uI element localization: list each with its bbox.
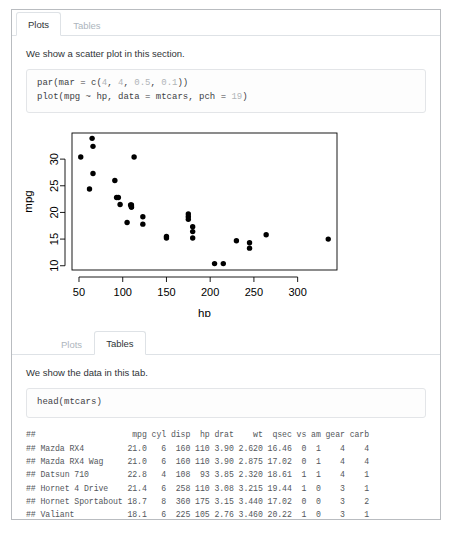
tab-plots[interactable]: Plots — [16, 12, 61, 37]
scatter-point — [186, 212, 191, 217]
scatter-point — [190, 224, 195, 229]
tables-description: We show the data in this tab. — [12, 355, 440, 379]
tab-tables[interactable]: Tables — [61, 13, 112, 37]
scatter-point — [131, 154, 136, 159]
scatter-point — [326, 237, 331, 242]
tabbar-tables: Plots Tables — [12, 329, 440, 355]
scatter-point — [124, 220, 129, 225]
scatter-point — [234, 238, 239, 243]
x-tick-label: 250 — [245, 286, 263, 298]
console-output: ## mpg cyl disp hp drat wt qsec vs am ge… — [26, 428, 426, 521]
plots-code-block: par(mar = c(4, 4, 0.5, 0.1)) plot(mpg ~ … — [26, 69, 426, 113]
output-row: ## Datsun 710 22.8 4 108 93 3.85 2.320 1… — [26, 468, 426, 481]
x-tick-label: 100 — [114, 286, 132, 298]
scatter-plot-figure: 501001502002503001015202530hpmpg — [12, 119, 418, 317]
y-tick-label: 10 — [48, 260, 60, 272]
scatter-point — [90, 171, 95, 176]
scatter-point — [140, 222, 145, 227]
y-tick-label: 15 — [48, 233, 60, 245]
y-tick-label: 30 — [48, 153, 60, 165]
tables-section: Plots Tables We show the data in this ta… — [12, 329, 440, 521]
output-row: ## Hornet Sportabout 18.7 8 360 175 3.15… — [26, 495, 426, 508]
scatter-point — [164, 235, 169, 240]
scatter-point — [263, 232, 268, 237]
scatter-point — [140, 214, 145, 219]
code-line: plot(mpg ~ hp, data = mtcars, pch = 19) — [37, 92, 248, 102]
y-tick-label: 20 — [48, 206, 60, 218]
scatter-point — [112, 178, 117, 183]
scatter-point — [247, 246, 252, 251]
output-row: ## Valiant 18.1 6 225 105 2.76 3.460 20.… — [26, 508, 426, 521]
plots-section: Plots Tables We show a scatter plot in t… — [12, 10, 440, 317]
scatter-point — [190, 229, 195, 234]
scatter-point — [221, 261, 226, 266]
code-line: head(mtcars) — [37, 397, 102, 407]
y-axis-title: mpg — [22, 190, 34, 212]
tab-plots-2[interactable]: Plots — [49, 332, 94, 356]
scatter-point — [190, 235, 195, 240]
x-tick-label: 50 — [73, 286, 85, 298]
scatter-point — [87, 186, 92, 191]
scatter-point — [212, 261, 217, 266]
scatter-point — [116, 195, 121, 200]
output-row: ## Mazda RX4 Wag 21.0 6 160 110 3.90 2.8… — [26, 455, 426, 468]
tabset-panel: Plots Tables We show a scatter plot in t… — [11, 9, 441, 520]
code-line: par(mar = c(4, 4, 0.5, 0.1)) — [37, 78, 188, 88]
tables-code-block: head(mtcars) — [26, 388, 426, 418]
section-gap — [12, 317, 440, 329]
plot-box — [72, 133, 337, 270]
x-axis-title: hp — [198, 307, 211, 317]
output-row: ## Mazda RX4 21.0 6 160 110 3.90 2.620 1… — [26, 442, 426, 455]
plots-description: We show a scatter plot in this section. — [12, 36, 440, 60]
scatter-point — [128, 202, 133, 207]
scatter-point — [117, 202, 122, 207]
x-tick-label: 200 — [201, 286, 219, 298]
y-tick-label: 25 — [48, 180, 60, 192]
scatter-plot-svg: 501001502002503001015202530hpmpg — [12, 119, 418, 317]
scatter-point — [90, 144, 95, 149]
output-row: ## Hornet 4 Drive 21.4 6 258 110 3.08 3.… — [26, 482, 426, 495]
x-tick-label: 150 — [157, 286, 175, 298]
tab-tables-2[interactable]: Tables — [94, 331, 145, 356]
scatter-point — [78, 154, 83, 159]
scatter-point — [247, 240, 252, 245]
tabbar-plots: Plots Tables — [12, 10, 440, 36]
output-header-row: ## mpg cyl disp hp drat wt qsec vs am ge… — [26, 428, 426, 441]
scatter-point — [89, 136, 94, 141]
x-tick-label: 300 — [288, 286, 306, 298]
